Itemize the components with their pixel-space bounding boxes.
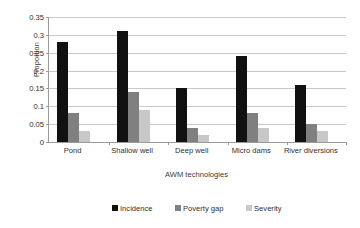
y-axis-tick-labels: 0.350.30.250.20.150.10.050	[16, 0, 44, 228]
bar	[317, 131, 328, 142]
bar	[128, 92, 139, 142]
gridline	[49, 17, 346, 18]
legend-item: Incidence	[112, 204, 153, 213]
bar	[247, 113, 258, 142]
bar	[139, 110, 150, 142]
x-axis-tick-label: Shallow well	[102, 146, 162, 157]
bar	[68, 113, 79, 142]
bar	[306, 124, 317, 142]
y-axis-tick-label: 0.15	[16, 84, 44, 93]
y-axis-tick-mark	[46, 106, 49, 107]
y-axis-tick-mark	[46, 17, 49, 18]
bar	[236, 56, 247, 142]
legend-label: Incidence	[120, 204, 153, 213]
y-axis-tick-label: 0.1	[16, 102, 44, 111]
x-axis-tick-label: Pond	[43, 146, 103, 157]
x-axis-tick-label: Deep well	[162, 146, 222, 157]
x-axis-tick-label: Micro dams	[222, 146, 282, 157]
legend-label: Poverty gap	[183, 204, 224, 213]
y-axis-tick-label: 0.35	[16, 13, 44, 22]
x-axis-title: AWM technologies	[48, 170, 345, 179]
y-axis-tick-label: 0.05	[16, 120, 44, 129]
x-axis-tick-mark	[109, 142, 110, 145]
y-axis-tick-mark	[46, 142, 49, 143]
bar-chart-figure: Proportion 0.350.30.250.20.150.10.050 Po…	[0, 0, 360, 228]
gridline	[49, 35, 346, 36]
y-axis-tick-mark	[46, 53, 49, 54]
x-axis-tick-mark	[287, 142, 288, 145]
x-axis-tick-label: River diversions	[281, 146, 341, 157]
legend-swatch-icon	[246, 205, 252, 211]
bar	[198, 135, 209, 142]
y-axis-tick-mark	[46, 71, 49, 72]
y-axis-tick-label: 0.2	[16, 66, 44, 75]
plot-area	[48, 17, 346, 142]
y-axis-tick-label: 0	[16, 138, 44, 147]
y-axis-tick-label: 0.3	[16, 30, 44, 39]
bar	[295, 85, 306, 142]
y-axis-tick-label: 0.25	[16, 48, 44, 57]
bar	[258, 128, 269, 142]
y-axis-tick-mark	[46, 124, 49, 125]
legend-swatch-icon	[175, 205, 181, 211]
bar	[79, 131, 90, 142]
gridline	[49, 71, 346, 72]
y-axis-tick-mark	[46, 88, 49, 89]
x-axis-tick-mark	[346, 142, 347, 145]
bar	[117, 31, 128, 142]
x-axis-line	[49, 142, 346, 143]
bar	[187, 128, 198, 142]
x-axis-tick-mark	[168, 142, 169, 145]
legend-label: Severity	[254, 204, 281, 213]
legend-item: Severity	[246, 204, 282, 213]
gridline	[49, 53, 346, 54]
chart-legend: IncidencePoverty gapSeverity	[48, 200, 345, 216]
bar	[57, 42, 68, 142]
legend-swatch-icon	[112, 205, 118, 211]
legend-item: Poverty gap	[175, 204, 224, 213]
bar	[176, 88, 187, 142]
x-axis-tick-mark	[228, 142, 229, 145]
y-axis-tick-mark	[46, 35, 49, 36]
